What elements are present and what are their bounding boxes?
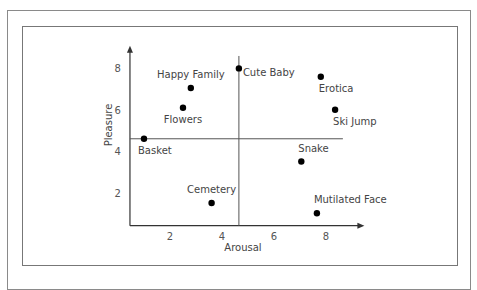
data-point-group: Happy Family bbox=[157, 69, 225, 91]
data-point bbox=[298, 158, 304, 164]
data-point bbox=[208, 200, 214, 206]
y-tick-label: 2 bbox=[115, 188, 121, 199]
data-point-label: Erotica bbox=[319, 83, 354, 94]
data-point-label: Happy Family bbox=[157, 69, 225, 80]
data-point bbox=[141, 136, 147, 142]
data-point-label: Cemetery bbox=[187, 184, 236, 195]
data-point bbox=[332, 107, 338, 113]
data-point bbox=[314, 210, 320, 216]
x-tick-label: 6 bbox=[271, 231, 277, 242]
data-point-group: Flowers bbox=[164, 105, 202, 125]
data-point-label: Cute Baby bbox=[243, 67, 295, 78]
x-tick-label: 4 bbox=[219, 231, 225, 242]
y-tick-label: 6 bbox=[115, 105, 121, 116]
data-point-group: Erotica bbox=[318, 73, 354, 93]
data-point-label: Basket bbox=[138, 145, 172, 156]
data-point-group: Cemetery bbox=[187, 184, 236, 206]
data-point bbox=[236, 65, 242, 71]
data-points: Happy FamilyFlowersCute BabyEroticaSki J… bbox=[138, 65, 387, 216]
data-point bbox=[318, 73, 324, 79]
x-axis-arrow-icon bbox=[357, 223, 364, 229]
data-point-group: Cute Baby bbox=[236, 65, 295, 78]
data-point-label: Mutilated Face bbox=[314, 194, 387, 205]
data-point-group: Snake bbox=[298, 143, 329, 165]
data-point-label: Flowers bbox=[164, 114, 202, 125]
data-point-label: Snake bbox=[298, 143, 328, 154]
data-point bbox=[180, 105, 186, 111]
x-tick-labels: 2468 bbox=[167, 231, 329, 242]
x-axis-title: Arousal bbox=[224, 242, 261, 253]
y-axis-arrow-icon bbox=[127, 46, 133, 53]
data-point-label: Ski Jump bbox=[333, 116, 376, 127]
data-point-group: Mutilated Face bbox=[314, 194, 387, 216]
y-tick-label: 8 bbox=[115, 63, 121, 74]
y-axis-title: Pleasure bbox=[103, 104, 114, 147]
y-tick-label: 4 bbox=[115, 146, 121, 157]
x-tick-label: 2 bbox=[167, 231, 173, 242]
x-tick-label: 8 bbox=[323, 231, 329, 242]
y-tick-labels: 2468 bbox=[115, 63, 121, 198]
data-point-group: Ski Jump bbox=[332, 107, 377, 127]
data-point bbox=[188, 85, 194, 91]
